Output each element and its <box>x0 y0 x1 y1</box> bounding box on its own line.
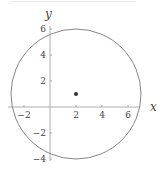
x-tick-label: −2 <box>17 110 30 120</box>
x-tick-label: 6 <box>125 110 131 120</box>
center-point <box>74 92 78 96</box>
y-tick-label: 4 <box>40 50 46 60</box>
x-tick-label: 2 <box>73 110 79 120</box>
y-axis-label: y <box>44 7 52 21</box>
circle-diagram: −2 2 4 6 6 4 2 −2 −4 x y <box>0 0 166 170</box>
x-axis-label: x <box>150 100 157 114</box>
y-tick-label: −2 <box>33 128 46 138</box>
y-tick-label: −4 <box>33 154 47 164</box>
x-tick-label: 4 <box>99 110 105 120</box>
y-tick-label: 6 <box>40 24 46 34</box>
y-tick-label: 2 <box>40 76 46 86</box>
